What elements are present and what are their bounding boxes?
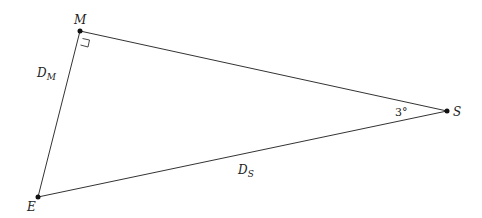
point-m [78,29,83,34]
label-s: S [453,105,461,119]
point-s [445,109,450,114]
label-m: M [73,13,87,27]
side-m-s [80,31,447,111]
right-angle-marker [81,39,90,48]
side-e-s [38,111,447,197]
point-e [36,195,41,200]
angle-s-label: 3° [395,106,408,119]
label-ds: DS [237,163,254,179]
label-e: E [26,200,36,214]
label-dm: DM [36,66,57,82]
side-m-e [38,31,80,197]
triangle-diagram: M S E DM DS 3° [0,0,482,218]
